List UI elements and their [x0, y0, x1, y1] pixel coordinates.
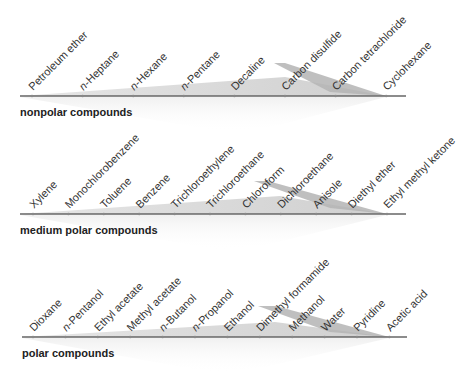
- solvent-name: Cyclohexane: [380, 39, 433, 92]
- solvent-name: Ethyl methyl ketone: [381, 134, 457, 210]
- solvent-name: Xylene: [27, 178, 59, 210]
- solvent-group: Petroleum ethern-Heptanen-Hexanen-Pentan…: [20, 13, 434, 132]
- solvent-tick: [138, 213, 141, 216]
- solvent-tick: [291, 336, 294, 339]
- solvent-name: -Hexane: [131, 50, 169, 88]
- solvent-label: n-Heptane: [77, 48, 122, 93]
- solvent-tick: [259, 336, 262, 339]
- solvent-name: -Heptane: [81, 48, 121, 88]
- solvent-tick: [161, 336, 164, 339]
- solvent-tick: [97, 336, 100, 339]
- solvent-label: Ethyl methyl ketone: [381, 134, 457, 210]
- solvent-tick: [32, 213, 35, 216]
- solvent-tick: [32, 336, 35, 339]
- solvent-tick: [323, 336, 326, 339]
- solvent-tick: [183, 95, 186, 98]
- solvent-tick: [194, 336, 197, 339]
- solvent-tick: [209, 213, 212, 216]
- solvent-label: Acetic acid: [383, 287, 429, 333]
- solvent-tick: [284, 95, 287, 98]
- solvent-label: Pyridine: [351, 297, 388, 334]
- solvent-label: Xylene: [27, 178, 59, 210]
- group-title: nonpolar compounds: [20, 106, 132, 118]
- solvent-tick: [385, 95, 388, 98]
- solvent-tick: [356, 336, 359, 339]
- solvent-tick: [315, 213, 318, 216]
- solvent-tick: [226, 336, 229, 339]
- solvent-tick: [31, 95, 34, 98]
- solvent-tick: [244, 213, 247, 216]
- solvent-name: Toluene: [98, 175, 134, 211]
- solvent-tick: [129, 336, 132, 339]
- solvent-tick: [280, 213, 283, 216]
- solvent-label: Toluene: [98, 175, 134, 211]
- solvent-name: Acetic acid: [383, 287, 429, 333]
- solvent-tick: [386, 213, 389, 216]
- solvent-tick: [64, 336, 67, 339]
- solvent-group: Dioxanen-PentanolEthyl acetateMethyl ace…: [22, 256, 429, 373]
- group-title: medium polar compounds: [20, 224, 158, 236]
- solvent-label: Cyclohexane: [380, 39, 433, 92]
- solvent-tick: [132, 95, 135, 98]
- solvent-group: XyleneMonochlorobenzeneTolueneBenzeneTri…: [20, 131, 457, 250]
- solvent-tick: [233, 95, 236, 98]
- solvent-name: Dioxane: [27, 296, 64, 333]
- solvent-tick: [81, 95, 84, 98]
- solvent-tick: [67, 213, 70, 216]
- solvent-tick: [103, 213, 106, 216]
- solvent-polarity-diagram: Petroleum ethern-Heptanen-Hexanen-Pentan…: [0, 0, 476, 377]
- solvent-tick: [173, 213, 176, 216]
- solvent-tick: [350, 213, 353, 216]
- group-title: polar compounds: [22, 347, 114, 359]
- solvent-label: Dioxane: [27, 296, 64, 333]
- solvent-tick: [334, 95, 337, 98]
- solvent-name: Pyridine: [351, 297, 388, 334]
- solvent-tick: [388, 336, 391, 339]
